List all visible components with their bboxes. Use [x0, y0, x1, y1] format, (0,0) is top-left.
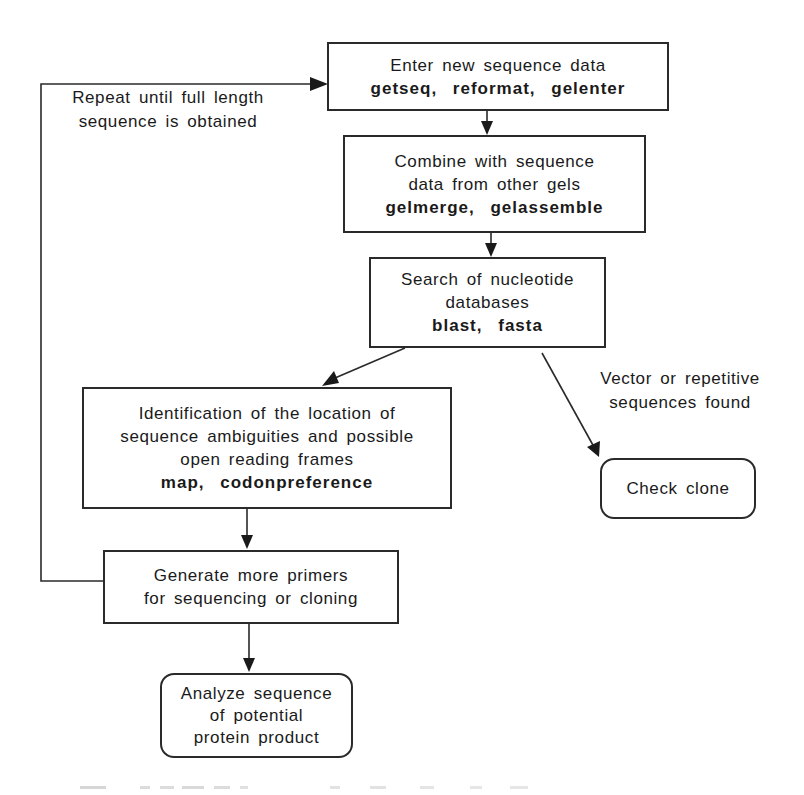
node-search-commands: blast, fasta	[432, 314, 543, 337]
vector-sequences-label: Vector or repetitive sequences found	[570, 367, 790, 415]
node-identify-ambiguities: Identification of the location of sequen…	[82, 387, 452, 509]
node-combine-commands: gelmerge, gelassemble	[385, 196, 603, 219]
repeat-label-line-2: sequence is obtained	[48, 110, 288, 134]
node-search-databases: Search of nucleotide databases blast, fa…	[369, 257, 606, 348]
node-identify-text-2: sequence ambiguities and possible	[120, 425, 413, 448]
vector-label-line-1: Vector or repetitive	[570, 367, 790, 391]
node-enter-sequence-data: Enter new sequence data getseq, reformat…	[327, 42, 669, 111]
node-combine-gels: Combine with sequence data from other ge…	[343, 135, 646, 233]
node-search-text-1: Search of nucleotide	[401, 268, 574, 291]
repeat-label-line-1: Repeat until full length	[48, 86, 288, 110]
repeat-loop-label: Repeat until full length sequence is obt…	[48, 86, 288, 134]
node-combine-text-2: data from other gels	[408, 173, 580, 196]
node-analyze-text-3: protein product	[194, 727, 319, 749]
node-generate-primers: Generate more primers for sequencing or …	[103, 550, 399, 624]
node-identify-text-1: Identification of the location of	[139, 402, 396, 425]
node-identify-commands: map, codonpreference	[161, 471, 373, 494]
node-generate-text-2: for sequencing or cloning	[144, 587, 358, 610]
arrow-generate-to-analyze	[243, 623, 255, 672]
node-identify-text-3: open reading frames	[180, 448, 353, 471]
node-generate-text-1: Generate more primers	[154, 564, 348, 587]
node-check-clone: Check clone	[600, 458, 756, 519]
arrow-enter-to-combine	[481, 110, 493, 135]
node-analyze-text-1: Analyze sequence	[181, 683, 333, 705]
arrow-identify-to-generate	[241, 508, 253, 549]
node-combine-text-1: Combine with sequence	[394, 150, 594, 173]
vector-label-line-2: sequences found	[570, 391, 790, 415]
node-search-text-2: databases	[446, 291, 530, 314]
node-analyze-protein: Analyze sequence of potential protein pr…	[160, 673, 353, 758]
cropped-figure-caption	[80, 782, 580, 792]
flowchart-canvas: Repeat until full length sequence is obt…	[0, 0, 804, 795]
node-enter-text: Enter new sequence data	[390, 54, 606, 77]
node-analyze-text-2: of potential	[210, 705, 303, 727]
arrow-search-to-identify	[322, 348, 405, 386]
caption-smudge	[80, 782, 580, 792]
node-check-clone-text: Check clone	[626, 477, 729, 500]
node-enter-commands: getseq, reformat, gelenter	[371, 77, 626, 100]
arrow-combine-to-search	[485, 232, 497, 257]
